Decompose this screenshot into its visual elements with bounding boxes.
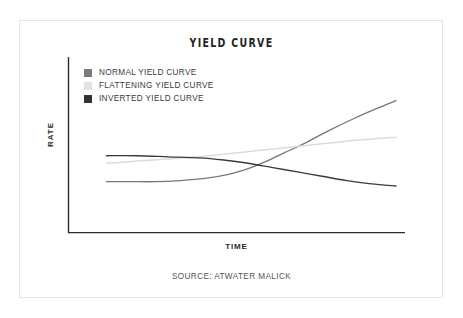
- chart-series-group: [106, 101, 396, 186]
- series-line-flattening: [106, 137, 396, 163]
- y-axis-label: RATE: [46, 115, 55, 155]
- chart-screenshot: YIELD CURVE NORMAL YIELD CURVE FLATTENIN…: [0, 0, 463, 318]
- x-axis-label: TIME: [68, 242, 405, 251]
- chart-plot-area: [0, 0, 463, 318]
- chart-axes: [68, 57, 405, 233]
- source-attribution: SOURCE: ATWATER MALICK: [0, 272, 463, 281]
